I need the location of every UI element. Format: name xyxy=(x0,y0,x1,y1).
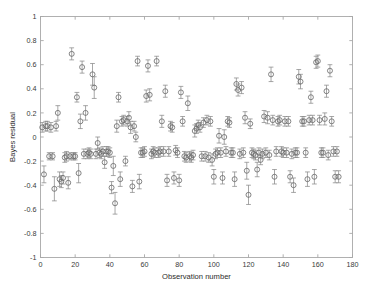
data-point xyxy=(222,130,227,144)
data-point xyxy=(95,137,100,149)
data-point xyxy=(218,148,223,158)
data-point xyxy=(145,60,150,72)
data-point xyxy=(217,129,222,143)
data-point xyxy=(199,151,204,161)
data-point xyxy=(41,166,46,183)
data-point xyxy=(165,174,170,186)
data-point xyxy=(47,153,52,160)
data-point xyxy=(223,147,228,157)
data-point xyxy=(232,172,237,186)
data-point xyxy=(163,85,168,97)
data-point xyxy=(336,171,341,183)
data-point xyxy=(329,117,334,127)
data-point xyxy=(282,117,287,127)
data-point xyxy=(308,91,313,103)
data-point xyxy=(246,185,251,204)
data-point xyxy=(178,86,183,98)
data-point xyxy=(154,56,159,66)
data-point xyxy=(267,150,272,160)
data-point xyxy=(324,85,329,97)
data-point xyxy=(262,110,267,122)
data-point xyxy=(327,65,332,77)
y-tick-label: -1 xyxy=(30,253,36,262)
x-tick-label: 40 xyxy=(106,260,114,269)
scatter-plot-svg: -1-0.8-0.6-0.4-0.200.20.40.60.8102040608… xyxy=(0,0,373,290)
y-tick-label: -0.8 xyxy=(24,229,36,238)
data-point xyxy=(133,132,138,142)
data-point xyxy=(123,156,128,166)
data-point xyxy=(274,147,279,157)
x-tick-label: 160 xyxy=(312,260,324,269)
x-tick-label: 100 xyxy=(208,260,220,269)
axis-labels-layer: -1-0.8-0.6-0.4-0.200.20.40.60.8102040608… xyxy=(8,12,359,280)
data-point xyxy=(81,149,86,159)
data-point xyxy=(322,113,327,125)
data-point xyxy=(244,162,249,179)
data-point xyxy=(69,48,74,60)
data-point xyxy=(50,153,55,160)
x-tick-label: 140 xyxy=(277,260,289,269)
data-point xyxy=(312,170,317,184)
data-point xyxy=(307,115,312,125)
data-point xyxy=(272,170,277,184)
data-point xyxy=(67,153,72,160)
x-axis-label: Observation number xyxy=(162,272,231,281)
y-tick-label: -0.2 xyxy=(24,157,36,166)
data-point xyxy=(265,112,270,124)
x-tick-label: 0 xyxy=(39,260,43,269)
data-point xyxy=(144,90,149,102)
data-point xyxy=(334,147,339,157)
data-point xyxy=(331,147,336,157)
data-point xyxy=(135,56,140,66)
x-tick-label: 60 xyxy=(141,260,149,269)
data-point xyxy=(326,150,331,160)
data-point xyxy=(74,92,79,102)
y-tick-label: 0.6 xyxy=(27,60,37,69)
data-point xyxy=(305,172,310,186)
data-point xyxy=(333,171,338,183)
y-tick-label: -0.6 xyxy=(24,205,36,214)
data-point xyxy=(303,148,308,158)
data-point xyxy=(248,119,253,129)
data-point xyxy=(118,172,123,186)
data-point xyxy=(291,178,296,192)
y-tick-label: -0.4 xyxy=(24,181,36,190)
data-point xyxy=(76,164,81,183)
data-point xyxy=(270,115,275,125)
x-tick-label: 80 xyxy=(175,260,183,269)
chart-figure: -1-0.8-0.6-0.4-0.200.20.40.60.8102040608… xyxy=(0,0,373,290)
data-point xyxy=(52,177,57,201)
data-point xyxy=(137,174,142,188)
data-point xyxy=(180,117,185,127)
y-tick-label: 0.4 xyxy=(27,84,37,93)
data-point xyxy=(116,92,121,102)
x-tick-label: 20 xyxy=(71,260,79,269)
data-point xyxy=(269,67,274,81)
data-point xyxy=(286,117,291,127)
data-point xyxy=(211,170,216,184)
data-point xyxy=(310,115,315,125)
data-point xyxy=(113,192,118,214)
y-tick-label: 0.8 xyxy=(27,36,37,45)
data-point xyxy=(317,115,322,125)
data-point xyxy=(288,171,293,183)
data-point xyxy=(102,156,107,168)
data-point xyxy=(109,182,114,194)
data-point xyxy=(220,172,225,184)
data-point xyxy=(185,96,190,110)
data-point xyxy=(159,115,164,127)
data-point xyxy=(130,180,135,192)
data-point xyxy=(80,61,85,73)
data-point xyxy=(284,148,289,158)
y-axis-label: Bayes residual xyxy=(8,112,17,162)
x-tick-label: 180 xyxy=(347,260,359,269)
y-tick-label: 0 xyxy=(33,133,37,142)
data-point xyxy=(161,147,166,157)
data-point xyxy=(66,177,71,189)
data-point xyxy=(83,106,88,120)
data-point xyxy=(166,147,171,157)
data-point xyxy=(54,121,59,131)
data-point xyxy=(78,114,83,128)
data-point xyxy=(55,106,60,120)
data-point xyxy=(243,112,248,124)
